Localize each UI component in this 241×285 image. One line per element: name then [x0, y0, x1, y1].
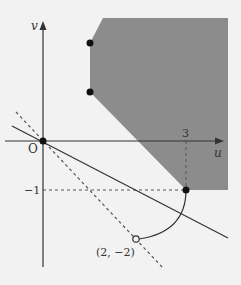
open-point-2-minus2 — [133, 236, 139, 242]
tick-label-v-minus1: −1 — [24, 184, 40, 197]
arc-curve — [139, 190, 186, 239]
vertex-dot-top — [87, 40, 94, 47]
u-axis-label: u — [214, 146, 222, 160]
tick-label-u3: 3 — [182, 127, 189, 140]
shaded-region — [90, 18, 228, 190]
origin-label: O — [28, 142, 38, 156]
diagram-figure: v u O 3 −1 (2, −2) — [0, 0, 241, 285]
v-axis-arrow-icon — [40, 21, 47, 30]
vertex-dot-middle — [87, 89, 94, 96]
origin-dot — [40, 138, 47, 145]
point-3-minus1-dot — [183, 187, 190, 194]
open-point-label: (2, −2) — [96, 246, 135, 259]
v-axis-label: v — [31, 19, 38, 33]
